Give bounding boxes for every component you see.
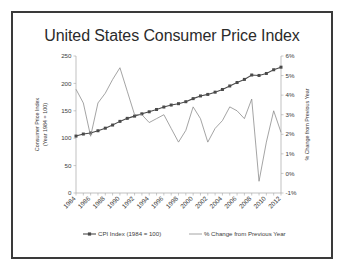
data-point-marker <box>111 124 114 127</box>
legend-item-label[interactable]: CPI Index (1984 = 100) <box>98 230 161 237</box>
y2-tick-label: 5% <box>286 72 295 79</box>
series-line <box>76 68 281 182</box>
chart-legend[interactable]: CPI Index (1984 = 100)% Change from Prev… <box>83 230 286 237</box>
chart-plot-area: 050100150200250Consumer Price Index(Year… <box>13 13 335 261</box>
y2-tick-label: 4% <box>286 91 295 98</box>
x-tick-label: 1990 <box>106 194 121 209</box>
data-point-marker <box>184 100 187 103</box>
y2-tick-label: 6% <box>286 52 295 59</box>
data-point-marker <box>148 110 151 113</box>
x-tick-label: 1984 <box>62 194 77 209</box>
data-point-marker <box>192 97 195 100</box>
x-tick-label: 2010 <box>252 194 267 209</box>
y-tick-label: 100 <box>61 134 72 141</box>
x-tick-label: 2006 <box>223 194 238 209</box>
x-tick-label: 1986 <box>76 194 91 209</box>
y-tick-label: 150 <box>61 107 72 114</box>
data-point-marker <box>162 106 165 109</box>
data-point-marker <box>250 74 253 77</box>
data-point-marker <box>228 84 231 87</box>
data-point-marker <box>177 102 180 105</box>
series-line <box>76 67 281 136</box>
data-point-marker <box>243 78 246 81</box>
data-point-marker <box>75 135 78 138</box>
data-point-marker <box>258 74 261 77</box>
data-point-marker <box>265 72 268 75</box>
y2-tick-label: 3% <box>286 111 295 118</box>
chart-frame: United States Consumer Price Index 05010… <box>11 11 333 259</box>
data-point-marker <box>82 133 85 136</box>
x-tick-label: 1996 <box>150 194 165 209</box>
data-point-marker <box>170 104 173 107</box>
x-tick-label: 2002 <box>193 194 208 209</box>
x-tick-label: 1994 <box>135 194 150 209</box>
y2-tick-label: 1% <box>286 150 295 157</box>
data-point-marker <box>155 108 158 111</box>
y2-axis-title: % Change from Previous Year <box>304 88 310 160</box>
x-tick-label: 2012 <box>267 194 282 209</box>
y-tick-label: 250 <box>61 52 72 59</box>
y2-tick-label: 0% <box>286 170 295 177</box>
x-axis: 1984198619881990199219941996199820002002… <box>62 193 282 210</box>
data-point-marker <box>126 117 129 120</box>
data-point-marker <box>214 91 217 94</box>
legend-item-label[interactable]: % Change from Previous Year <box>204 230 286 237</box>
data-point-marker <box>96 129 99 132</box>
x-tick-label: 2000 <box>179 194 194 209</box>
x-tick-label: 1992 <box>120 194 135 209</box>
y2-tick-label: -1% <box>286 189 298 196</box>
chart-page: United States Consumer Price Index 05010… <box>0 0 346 272</box>
y-axis-title: Consumer Price Index <box>34 98 40 152</box>
data-series <box>75 66 283 182</box>
data-point-marker <box>104 127 107 130</box>
data-point-marker <box>221 88 224 91</box>
legend-marker <box>88 232 91 235</box>
y-tick-label: 200 <box>61 80 72 87</box>
y-tick-label: 50 <box>65 162 72 169</box>
data-point-marker <box>206 93 209 96</box>
x-tick-label: 1988 <box>91 194 106 209</box>
y-axis-title: (Year 1984 = 100) <box>42 103 48 146</box>
y2-tick-label: 2% <box>286 130 295 137</box>
x-tick-label: 2004 <box>208 194 223 209</box>
data-point-marker <box>280 66 283 69</box>
data-point-marker <box>236 81 239 84</box>
x-tick-label: 2008 <box>237 194 252 209</box>
data-point-marker <box>199 94 202 97</box>
x-tick-label: 1998 <box>164 194 179 209</box>
data-point-marker <box>272 68 275 71</box>
left-axis: 050100150200250Consumer Price Index(Year… <box>34 52 76 196</box>
data-point-marker <box>118 120 121 123</box>
right-axis: -1%0%1%2%3%4%5%6%% Change from Previous … <box>281 52 310 196</box>
